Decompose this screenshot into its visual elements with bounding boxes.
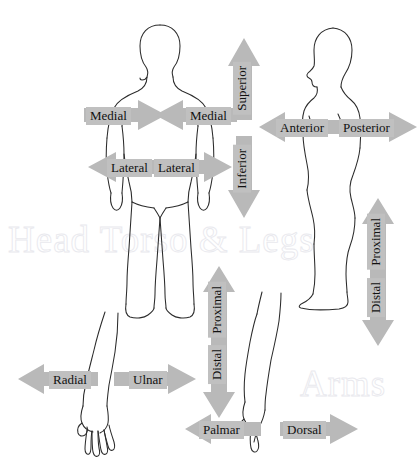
diagram-canvas: Head Torso & Legs Arms [0, 0, 418, 464]
dorsal-label: Dorsal [283, 421, 326, 439]
palmar-label: Palmar [199, 421, 244, 439]
posterior-label: Posterior [339, 119, 394, 137]
leg-distal-label: Distal [367, 278, 385, 317]
radial-label: Radial [49, 371, 91, 389]
medial-right-label: Medial [186, 107, 231, 125]
leg-proximal-label: Proximal [367, 214, 385, 270]
arm-proximal-label: Proximal [208, 282, 226, 338]
inferior-label: Inferior [233, 145, 251, 193]
ulnar-label: Ulnar [129, 371, 167, 389]
anterior-label: Anterior [276, 119, 328, 137]
arm-distal-label: Distal [208, 345, 226, 384]
lateral-left-label: Lateral [107, 159, 152, 177]
watermark-arms: Arms [300, 362, 386, 405]
lateral-right-label: Lateral [154, 159, 199, 177]
watermark-top-remnant-left [30, 0, 36, 9]
medial-left-label: Medial [86, 107, 131, 125]
superior-label: Superior [233, 62, 251, 115]
